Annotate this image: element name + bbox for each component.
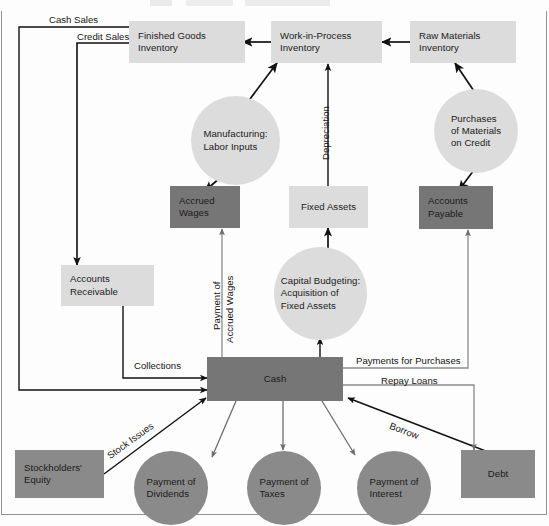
node-label: Raw Materials Inventory [419, 30, 480, 54]
node-label: Manufacturing: Labor Inputs [203, 128, 267, 152]
node-accounts-receivable[interactable]: Accounts Receivable [61, 265, 154, 306]
edge-cash-to-payment-of-dividends [212, 401, 236, 457]
diagram-canvas: Finished Goods Inventory Work-in-Process… [0, 0, 549, 526]
edge-cash-to-payment-of-interest [322, 401, 355, 455]
node-label: Accrued Wages [179, 195, 215, 219]
node-payment-of-interest[interactable]: Payment of Interest [357, 451, 431, 525]
edge-label-repay-loans: Repay Loans [381, 375, 438, 387]
edge-label-payments-for-purchases: Payments for Purchases [356, 355, 461, 367]
edge-label-depreciation: Depreciation [320, 106, 332, 160]
node-manufacturing-labor-inputs[interactable]: Manufacturing: Labor Inputs [191, 96, 280, 185]
node-label: Finished Goods Inventory [138, 30, 206, 54]
node-purchases-of-materials-on-credit[interactable]: Purchases of Materials on Credit [434, 89, 518, 173]
node-cash[interactable]: Cash [207, 357, 343, 401]
node-label: Capital Budgeting: Acquisition of Fixed … [281, 275, 360, 312]
node-label: Work-in-Process Inventory [280, 30, 351, 54]
edge-manufacturing-to-wip [247, 63, 277, 103]
node-label: Debt [488, 468, 508, 480]
node-label: Stockholders' Equity [24, 462, 82, 486]
node-label: Fixed Assets [301, 201, 356, 213]
node-debt[interactable]: Debt [461, 450, 535, 498]
edge-label-payment-of-accrued-wages-line2: Accrued Wages [224, 276, 236, 343]
node-capital-budgeting[interactable]: Capital Budgeting: Acquisition of Fixed … [274, 247, 367, 340]
node-payment-of-taxes[interactable]: Payment of Taxes [247, 451, 321, 525]
edge-label-payment-of-accrued-wages-line1: Payment of [211, 281, 223, 330]
node-label: Payment of Dividends [146, 476, 195, 500]
connector-layer [0, 0, 549, 526]
edge-repay-loans-to-debt [343, 385, 474, 450]
node-label: Purchases of Materials on Credit [451, 113, 501, 150]
node-label: Accounts Receivable [70, 273, 118, 297]
node-finished-goods-inventory[interactable]: Finished Goods Inventory [129, 21, 245, 63]
node-label: Payment of Taxes [259, 476, 308, 500]
node-payment-of-dividends[interactable]: Payment of Dividends [134, 451, 208, 525]
node-accounts-payable[interactable]: Accounts Payable [419, 186, 493, 229]
node-label: Payment of Interest [369, 476, 418, 500]
node-accrued-wages[interactable]: Accrued Wages [170, 186, 240, 228]
edge-credit-sales-to-accounts-receivable [77, 43, 163, 265]
node-label: Accounts Payable [428, 195, 468, 219]
node-stockholders-equity[interactable]: Stockholders' Equity [15, 450, 104, 498]
edge-label-credit-sales: Credit Sales [77, 31, 129, 43]
node-label: Cash [264, 373, 287, 385]
edge-label-cash-sales: Cash Sales [49, 14, 98, 26]
edge-label-collections: Collections [134, 360, 181, 372]
node-raw-materials-inventory[interactable]: Raw Materials Inventory [410, 21, 516, 63]
node-work-in-process-inventory[interactable]: Work-in-Process Inventory [271, 21, 382, 63]
node-fixed-assets[interactable]: Fixed Assets [289, 186, 368, 228]
